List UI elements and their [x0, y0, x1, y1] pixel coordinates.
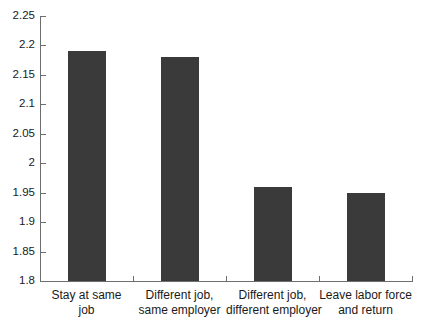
- x-axis-line: [40, 281, 413, 282]
- y-axis-tick-labels: 2.252.22.152.12.0521.951.91.851.8: [0, 0, 35, 331]
- x-axis-category-label-line2: same employer: [133, 303, 226, 318]
- x-axis-end-tick: [412, 276, 413, 281]
- y-axis-tick-label: 2.2: [19, 39, 35, 51]
- y-axis-tick-mark: [41, 45, 46, 46]
- y-axis-tick-mark: [41, 75, 46, 76]
- bar-chart: 2.252.22.152.12.0521.951.91.851.8 Stay a…: [0, 0, 426, 331]
- y-axis-tick-label: 2.05: [13, 128, 35, 140]
- y-axis-line: [40, 16, 41, 282]
- y-axis-tick-label: 2: [29, 157, 35, 169]
- y-axis-tick-label: 2.25: [13, 10, 35, 22]
- x-axis-category-label: Different job,same employer: [133, 288, 226, 317]
- y-axis-tick-label: 1.8: [19, 275, 35, 287]
- y-axis-top-tick: [41, 16, 46, 17]
- x-axis-category-label-line2: and return: [319, 303, 412, 318]
- bar: [254, 187, 292, 281]
- x-axis-tick-mark: [226, 276, 227, 281]
- y-axis-tick-label: 2.15: [13, 69, 35, 81]
- y-axis-tick-mark: [41, 252, 46, 253]
- y-axis-tick-mark: [41, 163, 46, 164]
- y-axis-tick-mark: [41, 104, 46, 105]
- x-axis-tick-mark: [319, 276, 320, 281]
- y-axis-tick-label: 1.85: [13, 246, 35, 258]
- x-axis-category-label: Different job,different employer: [226, 288, 319, 317]
- x-axis-category-label-line1: Different job,: [226, 288, 319, 303]
- bar: [347, 193, 385, 281]
- x-axis-tick-mark: [133, 276, 134, 281]
- y-axis-tick-label: 1.95: [13, 187, 35, 199]
- y-axis-tick-mark: [41, 193, 46, 194]
- y-axis-tick-mark: [41, 134, 46, 135]
- y-axis-tick-label: 2.1: [19, 98, 35, 110]
- x-axis-category-label-line1: Different job,: [133, 288, 226, 303]
- y-axis-tick-label: 1.9: [19, 216, 35, 228]
- x-axis-category-label-line2: different employer: [226, 303, 319, 318]
- x-axis-category-label: Leave labor forceand return: [319, 288, 412, 317]
- bar: [68, 51, 106, 281]
- x-axis-category-label-line1: Stay at same: [40, 288, 133, 303]
- y-axis-tick-mark: [41, 222, 46, 223]
- x-axis-category-label: Stay at samejob: [40, 288, 133, 317]
- y-axis-tick-mark: [41, 281, 46, 282]
- x-axis-category-label-line2: job: [40, 303, 133, 318]
- x-axis-category-label-line1: Leave labor force: [319, 288, 412, 303]
- bar: [161, 57, 199, 281]
